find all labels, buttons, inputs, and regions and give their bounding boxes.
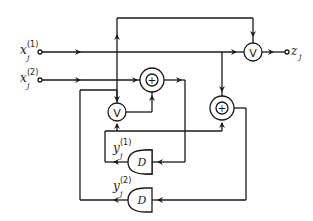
label-z: z j	[290, 44, 302, 61]
or-gate-output-symbol: V	[249, 47, 257, 60]
xor2-to-d2-wire	[152, 108, 246, 200]
label-x2-sup: (2)	[27, 68, 38, 77]
input-x2-terminal	[38, 78, 42, 82]
label-x1-sup: (1)	[27, 40, 38, 49]
xor-gate-1-symbol: +	[148, 75, 156, 86]
xor-gate-2: +	[210, 96, 234, 120]
xor-gate-1: +	[140, 68, 164, 92]
label-z-sub: j	[297, 52, 302, 61]
delay-element-1: D	[128, 150, 152, 174]
label-y2-sup: (2)	[120, 176, 131, 185]
delay-1-symbol: D	[137, 156, 147, 169]
label-y2-base: y	[112, 179, 120, 193]
xor-gate-2-symbol: +	[218, 103, 226, 114]
xor1-to-d1-wire	[152, 80, 185, 162]
delay-element-2: D	[128, 188, 152, 212]
output-wire	[262, 50, 289, 54]
circuit-svg: V + V	[0, 0, 313, 221]
or-gate-feedback: V	[108, 103, 126, 121]
input-x1-terminal	[38, 50, 42, 54]
or-gate-feedback-symbol: V	[113, 107, 121, 120]
label-y1-base: y	[112, 141, 120, 155]
input-x1-wire	[38, 50, 244, 54]
input-x2-wire	[38, 78, 140, 82]
delay-2-symbol: D	[137, 194, 147, 207]
label-x2-base: x	[20, 71, 27, 85]
label-z-base: z	[290, 44, 298, 58]
label-x1-base: x	[20, 43, 27, 57]
or-to-xor1-wire	[126, 92, 152, 112]
label-x2: x (2) j	[20, 68, 38, 90]
label-x1: x (1) j	[20, 40, 38, 62]
or-gate-output: V	[244, 43, 262, 61]
output-terminal	[285, 50, 289, 54]
label-y1-sup: (1)	[120, 138, 131, 147]
sequential-circuit-diagram: V + V	[0, 0, 313, 221]
